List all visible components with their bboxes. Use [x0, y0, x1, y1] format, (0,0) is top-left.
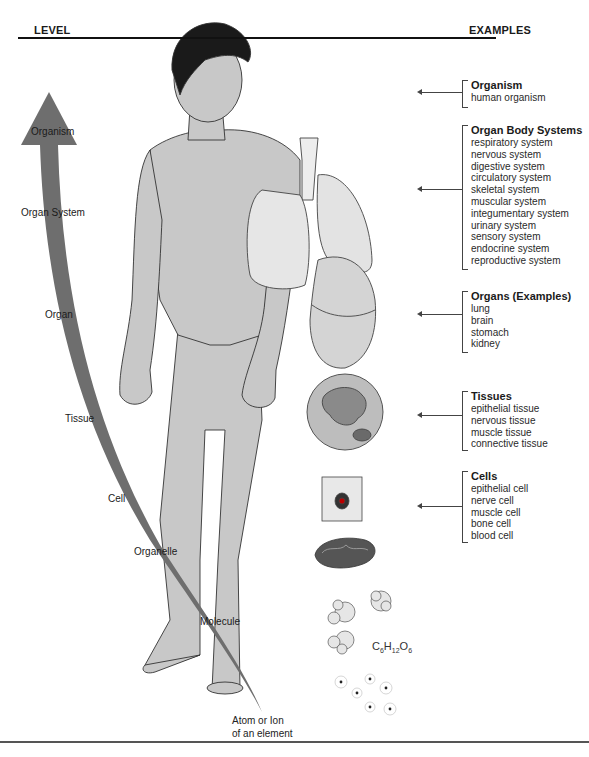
example-item: connective tissue — [471, 438, 548, 450]
example-item: epithelial tissue — [471, 403, 548, 415]
pointer-arrow-organs — [421, 314, 462, 315]
example-item: human organism — [471, 92, 545, 104]
atom-label-line2: of an element — [232, 728, 293, 741]
human-figure-illustration — [120, 23, 300, 694]
example-item: endocrine system — [471, 243, 582, 255]
example-item: epithelial cell — [471, 483, 528, 495]
example-item: nerve cell — [471, 495, 528, 507]
example-item: lung — [471, 303, 571, 315]
example-item: skeletal system — [471, 184, 582, 196]
group-title: Cells — [462, 469, 528, 483]
level-label-tissue: Tissue — [65, 413, 94, 424]
example-item: circulatory system — [471, 172, 582, 184]
organelle-illustration — [315, 538, 375, 568]
example-item: kidney — [471, 338, 571, 350]
tissue-illustration — [307, 374, 383, 450]
example-item: nervous tissue — [471, 415, 548, 427]
top-rule — [18, 37, 496, 39]
pointer-arrow-organ-systems — [421, 189, 462, 190]
example-item: reproductive system — [471, 255, 582, 267]
pointer-arrow-cells — [421, 506, 462, 507]
example-item: integumentary system — [471, 208, 582, 220]
example-item: blood cell — [471, 530, 528, 542]
atom-label-line1: Atom or Ion — [232, 715, 293, 728]
examples-group-organ-systems: Organ Body Systems respiratory system ne… — [462, 123, 582, 267]
examples-group-organs: Organs (Examples) lung brain stomach kid… — [462, 289, 571, 350]
example-item: sensory system — [471, 231, 582, 243]
level-label-organelle: Organelle — [134, 546, 177, 557]
example-item: muscle cell — [471, 507, 528, 519]
example-item: muscular system — [471, 196, 582, 208]
group-title: Organism — [462, 78, 545, 92]
level-label-organ: Organ — [45, 309, 73, 320]
level-label-organism: Organism — [31, 126, 74, 137]
example-item: stomach — [471, 327, 571, 339]
atoms-illustration — [335, 674, 396, 715]
level-label-atom: Atom or Ion of an element — [232, 715, 293, 740]
level-label-organ-system: Organ System — [21, 207, 85, 218]
examples-group-cells: Cells epithelial cell nerve cell muscle … — [462, 469, 528, 542]
pointer-arrow-tissues — [421, 415, 462, 416]
example-item: muscle tissue — [471, 427, 548, 439]
level-label-cell: Cell — [108, 493, 125, 504]
example-item: digestive system — [471, 161, 582, 173]
example-item: brain — [471, 315, 571, 327]
bottom-rule — [0, 741, 589, 743]
examples-group-organism: Organism human organism — [462, 78, 545, 104]
group-title: Organ Body Systems — [462, 123, 582, 137]
example-item: urinary system — [471, 220, 582, 232]
example-item: bone cell — [471, 518, 528, 530]
pointer-arrow-organism — [421, 92, 462, 93]
examples-group-tissues: Tissues epithelial tissue nervous tissue… — [462, 389, 548, 450]
example-item: nervous system — [471, 149, 582, 161]
group-title: Tissues — [462, 389, 548, 403]
group-title: Organs (Examples) — [462, 289, 571, 303]
cell-illustration — [322, 477, 362, 521]
hierarchy-illustration — [0, 0, 589, 757]
example-item: respiratory system — [471, 137, 582, 149]
level-label-molecule: Molecule — [200, 616, 240, 627]
glucose-formula: C6H12O6 — [372, 640, 412, 654]
